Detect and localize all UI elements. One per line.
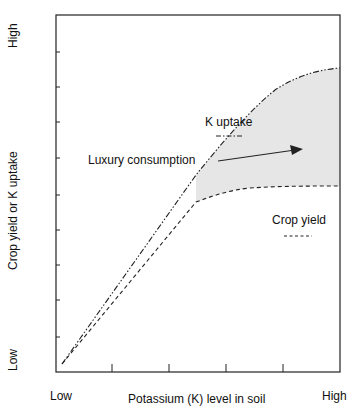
- luxury-consumption-label: Luxury consumption: [88, 153, 195, 167]
- k-uptake-label: K uptake: [205, 115, 252, 129]
- chart-canvas: [0, 0, 356, 415]
- y-high-label: High: [6, 23, 20, 48]
- y-low-label: Low: [6, 349, 20, 371]
- x-axis-title: Potassium (K) level in soil: [128, 392, 265, 406]
- x-ticks: [112, 364, 283, 372]
- x-low-label: Low: [50, 389, 72, 403]
- x-high-label: High: [322, 389, 347, 403]
- crop-yield-label: Crop yield: [272, 213, 326, 227]
- luxury-region: [196, 68, 340, 202]
- y-axis-title: Crop yield or K uptake: [6, 151, 20, 270]
